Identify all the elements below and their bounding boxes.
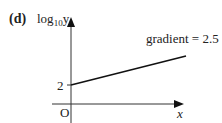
x-axis-label: x <box>176 106 183 121</box>
graph-svg: (d) log10y 2 O x gradient = 2.5 <box>0 0 222 123</box>
origin-label: O <box>60 105 69 120</box>
data-line <box>71 56 186 85</box>
intercept-label: 2 <box>57 78 64 93</box>
gradient-annotation: gradient = 2.5 <box>146 31 219 46</box>
y-axis-label: log10y <box>37 11 70 28</box>
diagram-canvas: (d) log10y 2 O x gradient = 2.5 <box>0 0 222 123</box>
part-label: (d) <box>9 11 26 27</box>
